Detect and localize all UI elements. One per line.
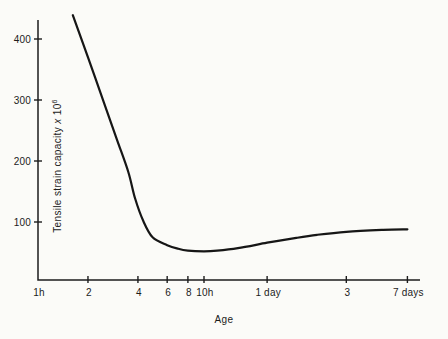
x-tick-label: 1h [33,287,45,298]
y-tick-label: 200 [14,156,32,167]
y-axis-title-text: Tensile strain capacity [52,127,63,233]
x-tick-label: 8 [186,287,192,298]
y-tick-label: 300 [14,95,32,106]
x-tick-label: 3 [344,287,350,298]
x-tick-label: 4 [136,287,142,298]
tensile-strain-curve [73,15,408,251]
x-axis-title: Age [215,314,234,325]
chart-figure: 1002003004001h246810h1 day37 days Tensil… [0,0,448,339]
line-plot: 1002003004001h246810h1 day37 days [0,0,448,339]
x-tick-label: 6 [165,287,171,298]
y-axis-title: Tensile strain capacity x 106 [51,99,63,233]
y-axis-title-times: x [52,118,63,123]
y-axis-title-exponent: 6 [51,99,58,103]
x-tick-label: 10h [196,287,213,298]
y-axis-title-base: 10 [52,103,63,115]
x-tick-label: 7 days [393,287,424,298]
x-tick-label: 2 [86,287,92,298]
y-tick-label: 400 [14,34,32,45]
x-tick-label: 1 day [255,287,280,298]
y-tick-label: 100 [14,217,32,228]
axes [38,20,420,280]
